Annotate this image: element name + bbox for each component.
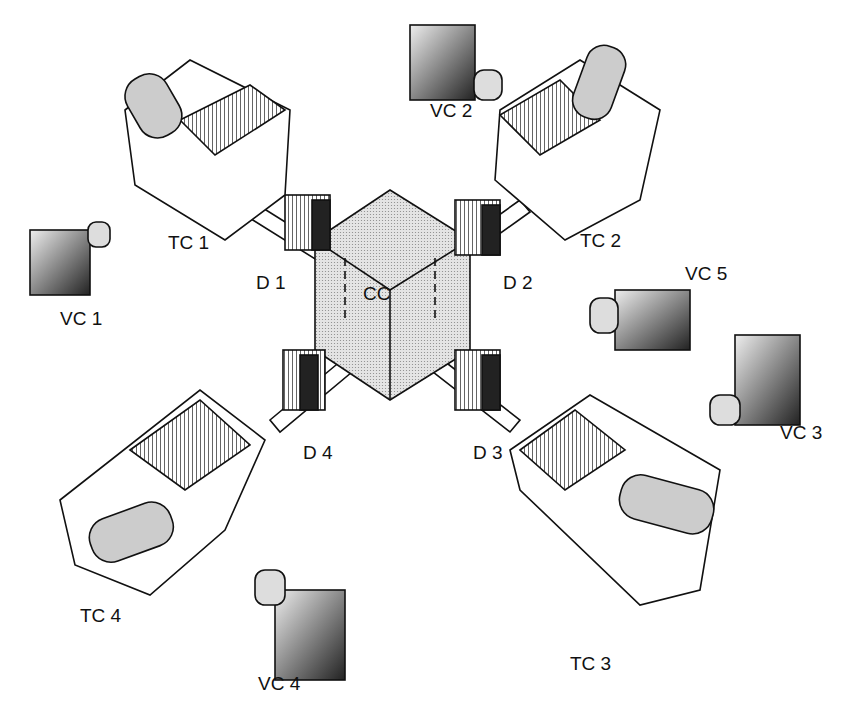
label-video-camera-1: VC 1 <box>60 308 102 330</box>
apparatus-diagram: CC D 1 D 2 D 3 D 4 TC 1 TC 2 TC 3 TC 4 V… <box>0 0 843 707</box>
label-door-4: D 4 <box>303 442 333 464</box>
target-chamber-3 <box>510 395 720 605</box>
label-video-camera-5: VC 5 <box>685 263 727 285</box>
diagram-drawing <box>0 0 843 707</box>
video-camera-5 <box>590 290 690 350</box>
door-1 <box>285 195 330 250</box>
door-3 <box>455 350 500 410</box>
target-chamber-4 <box>60 390 265 595</box>
label-target-chamber-2: TC 2 <box>580 230 621 252</box>
video-camera-4 <box>255 570 345 680</box>
label-door-3: D 3 <box>473 442 503 464</box>
door-4 <box>283 350 325 410</box>
label-target-chamber-3: TC 3 <box>570 653 611 675</box>
video-camera-2 <box>410 25 502 100</box>
label-video-camera-3: VC 3 <box>780 422 822 444</box>
label-target-chamber-4: TC 4 <box>80 605 121 627</box>
label-door-1: D 1 <box>256 272 286 294</box>
label-video-camera-2: VC 2 <box>430 100 472 122</box>
door-2 <box>455 200 500 255</box>
label-central-chamber: CC <box>363 283 390 305</box>
video-camera-3 <box>710 335 800 425</box>
label-target-chamber-1: TC 1 <box>168 232 209 254</box>
label-video-camera-4: VC 4 <box>258 673 300 695</box>
label-door-2: D 2 <box>503 272 533 294</box>
video-camera-1 <box>30 222 110 295</box>
